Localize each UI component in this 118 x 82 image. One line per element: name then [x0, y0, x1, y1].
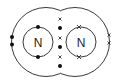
shared-electron-cross [59, 56, 62, 59]
shared-electron-cross [59, 18, 62, 21]
inner-electron-dot [36, 25, 40, 29]
lone-pair-dot [10, 35, 14, 39]
atom-label-left: N [34, 36, 43, 50]
lone-pair-dot [10, 43, 14, 47]
outer-shell-left [12, 8, 81, 77]
shared-electron-dot [58, 26, 62, 30]
shared-electron-cross [59, 37, 62, 40]
atom-label-right: N [77, 36, 86, 50]
diagram-canvas: N N [0, 0, 118, 82]
inner-electron-dot [36, 55, 40, 59]
shared-electron-dot [58, 45, 62, 49]
outer-shell-right [41, 8, 110, 77]
shared-electron-dot [58, 64, 62, 68]
n2-dot-cross-diagram: N N [0, 0, 118, 82]
